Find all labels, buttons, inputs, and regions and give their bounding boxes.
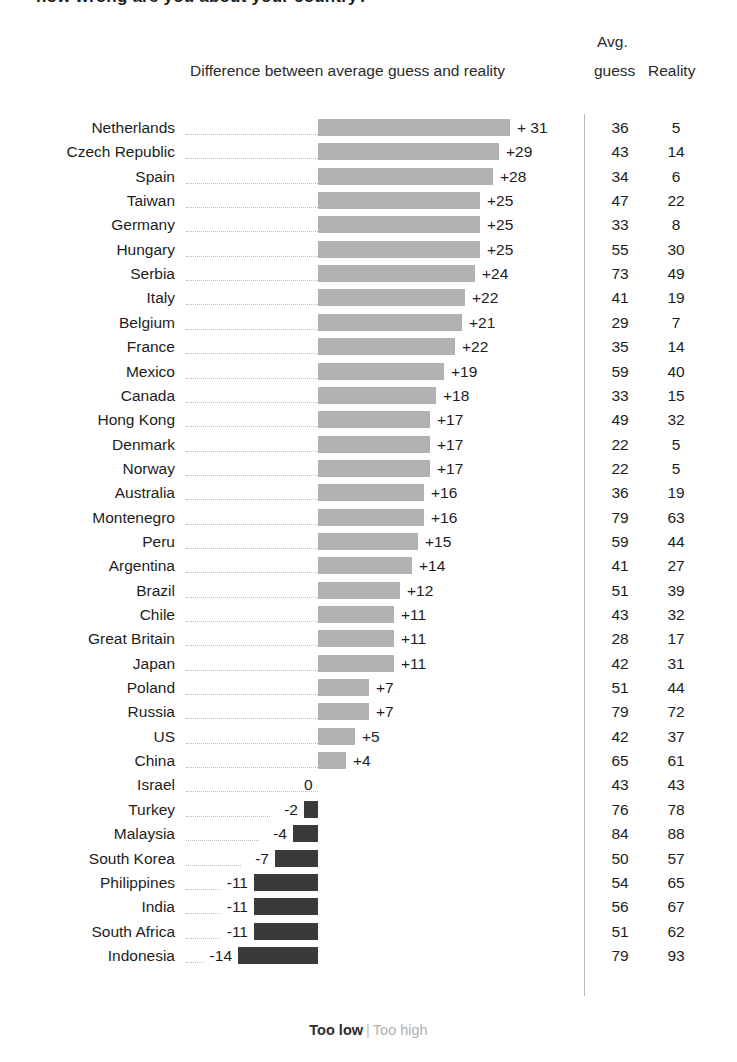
- country-label: Spain: [0, 167, 175, 186]
- bar-positive: [318, 484, 424, 501]
- bar-positive: [318, 533, 418, 550]
- leader-line: [186, 889, 220, 891]
- leader-line: [186, 378, 318, 380]
- leader-line: [186, 451, 318, 453]
- leader-line: [186, 840, 259, 842]
- bar-value-label: -4: [261, 824, 287, 843]
- country-label: Norway: [0, 459, 175, 478]
- avg-guess-value: 59: [596, 362, 644, 381]
- country-label: US: [0, 727, 175, 746]
- table-row: Denmark+17225: [0, 435, 737, 459]
- country-label: Canada: [0, 386, 175, 405]
- leader-line: [186, 183, 318, 185]
- bar-value-label: +24: [482, 264, 508, 283]
- bar-positive: [318, 655, 394, 672]
- leader-line: [186, 865, 241, 867]
- leader-line: [186, 913, 220, 915]
- avg-guess-value: 49: [596, 410, 644, 429]
- avg-guess-value: 43: [596, 605, 644, 624]
- bar-positive: [318, 728, 355, 745]
- bar-positive: [318, 509, 424, 526]
- avg-guess-value: 59: [596, 532, 644, 551]
- reality-value: 17: [652, 629, 700, 648]
- bar-negative: [254, 874, 318, 891]
- bar-positive: [318, 289, 465, 306]
- reality-value: 27: [652, 556, 700, 575]
- country-label: Poland: [0, 678, 175, 697]
- country-label: Hong Kong: [0, 410, 175, 429]
- reality-value: 22: [652, 191, 700, 210]
- avg-guess-value: 65: [596, 751, 644, 770]
- bar-positive: [318, 314, 462, 331]
- reality-value: 88: [652, 824, 700, 843]
- avg-guess-value: 50: [596, 849, 644, 868]
- table-row: Argentina+144127: [0, 556, 737, 580]
- leader-line: [186, 816, 270, 818]
- table-row: France+223514: [0, 337, 737, 361]
- avg-guess-value: 73: [596, 264, 644, 283]
- bar-positive: [318, 582, 400, 599]
- country-label: Denmark: [0, 435, 175, 454]
- leader-line: [186, 670, 318, 672]
- reality-value: 19: [652, 483, 700, 502]
- avg-guess-value: 79: [596, 508, 644, 527]
- table-row: South Korea-75057: [0, 849, 737, 873]
- bar-value-label: -7: [243, 849, 269, 868]
- table-row: Poland+75144: [0, 678, 737, 702]
- leader-line: [186, 938, 220, 940]
- bar-positive: [318, 411, 430, 428]
- bar-positive: [318, 679, 369, 696]
- bar-positive: [318, 241, 480, 258]
- country-label: Australia: [0, 483, 175, 502]
- avg-guess-value: 41: [596, 288, 644, 307]
- bar-value-label: +17: [437, 459, 463, 478]
- bar-value-label: +11: [401, 629, 426, 648]
- bar-value-label: +25: [487, 215, 513, 234]
- reality-value: 15: [652, 386, 700, 405]
- bar-positive: [318, 752, 346, 769]
- country-label: Czech Republic: [0, 142, 175, 161]
- table-row: Mexico+195940: [0, 362, 737, 386]
- country-label: Malaysia: [0, 824, 175, 843]
- avg-guess-value: 43: [596, 775, 644, 794]
- table-row: Israel04343: [0, 775, 737, 799]
- bar-value-label: +14: [419, 556, 445, 575]
- table-row: Japan+114231: [0, 654, 737, 678]
- leader-line: [186, 621, 318, 623]
- avg-guess-value: 22: [596, 435, 644, 454]
- table-row: Taiwan+254722: [0, 191, 737, 215]
- table-row: Canada+183315: [0, 386, 737, 410]
- bar-value-label: +19: [451, 362, 477, 381]
- table-row: Czech Republic+294314: [0, 142, 737, 166]
- avg-guess-value: 79: [596, 702, 644, 721]
- avg-guess-value: 51: [596, 678, 644, 697]
- bar-negative: [238, 947, 318, 964]
- bar-value-label: +7: [376, 678, 394, 697]
- bar-value-label: +17: [437, 435, 463, 454]
- leader-line: [186, 524, 318, 526]
- legend-too-high: Too high: [373, 1022, 428, 1038]
- country-label: Italy: [0, 288, 175, 307]
- bar-value-label: -11: [222, 922, 248, 941]
- bar-value-label: +15: [425, 532, 451, 551]
- country-label: Chile: [0, 605, 175, 624]
- avg-guess-value: 56: [596, 897, 644, 916]
- avg-guess-value: 42: [596, 654, 644, 673]
- bar-value-label: +18: [443, 386, 469, 405]
- bar-positive: [318, 192, 480, 209]
- table-row: US+54237: [0, 727, 737, 751]
- country-label: Belgium: [0, 313, 175, 332]
- country-label: Taiwan: [0, 191, 175, 210]
- leader-line: [186, 256, 318, 258]
- leader-line: [186, 402, 318, 404]
- reality-value: 37: [652, 727, 700, 746]
- country-label: Brazil: [0, 581, 175, 600]
- reality-value: 14: [652, 142, 700, 161]
- avg-guess-value: 28: [596, 629, 644, 648]
- leader-line: [186, 597, 318, 599]
- table-row: Peru+155944: [0, 532, 737, 556]
- bar-positive: [318, 557, 412, 574]
- bar-positive: [318, 703, 369, 720]
- bar-value-label: 0: [304, 775, 313, 794]
- table-row: Malaysia-48488: [0, 824, 737, 848]
